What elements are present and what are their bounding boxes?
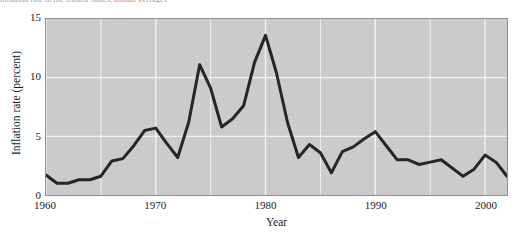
y-tick-label: 5 (3, 131, 41, 142)
x-axis-title: Year (45, 216, 508, 228)
x-tick-label: 2000 (456, 199, 516, 211)
x-tick-label: 1970 (125, 199, 185, 211)
plot-area (45, 18, 508, 196)
y-tick-label: 10 (3, 71, 41, 82)
x-tick-label: 1960 (15, 199, 75, 211)
inflation-line-chart-figure: Inflation rate in the United States, ann… (0, 0, 520, 239)
x-tick-label: 1980 (235, 199, 295, 211)
inflation-series-line (46, 19, 507, 195)
x-tick-label: 1990 (346, 199, 406, 211)
caption-fragment: Inflation rate in the United States, ann… (0, 0, 340, 3)
y-tick-label: 15 (3, 12, 41, 23)
